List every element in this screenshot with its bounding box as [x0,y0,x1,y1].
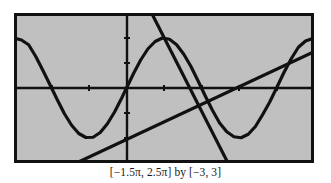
figure-container: [−1.5π, 2.5π] by [−3, 3] [0,0,331,183]
graph-plot-area [14,13,314,163]
graph-svg [14,13,314,163]
window-range-caption: [−1.5π, 2.5π] by [−3, 3] [0,166,331,178]
